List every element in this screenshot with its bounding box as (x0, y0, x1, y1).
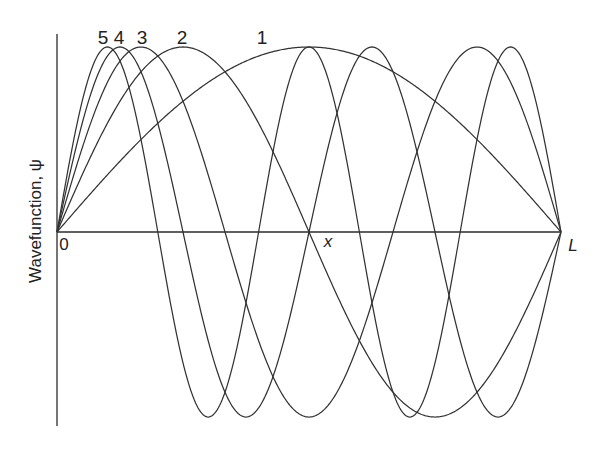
curve-label-4: 4 (114, 27, 125, 48)
curve-label-5: 5 (98, 27, 109, 48)
x-end-label: L (568, 236, 577, 255)
y-axis-label: Wavefunction, ψ (26, 159, 45, 283)
wavefunction-diagram: 5 4 3 2 1 0 x L Wavefunction, ψ (0, 0, 609, 449)
curve-label-1: 1 (257, 27, 268, 48)
curve-label-2: 2 (177, 27, 188, 48)
x-axis-label: x (323, 232, 333, 251)
wavefunction-curve-n1 (57, 47, 561, 232)
x-start-label: 0 (59, 235, 68, 254)
curve-label-3: 3 (137, 27, 148, 48)
